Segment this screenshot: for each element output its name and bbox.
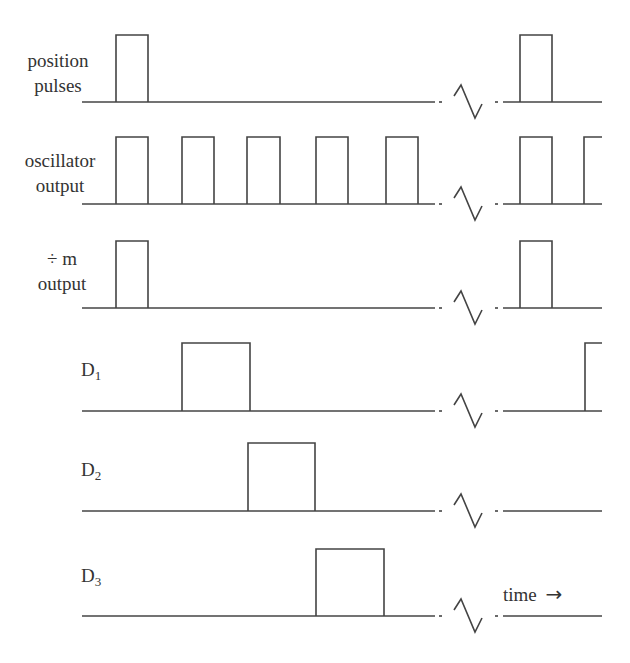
label-position-pulses: position pulses — [10, 48, 106, 98]
label-d1: D1 — [81, 359, 101, 384]
label-line: position — [10, 48, 106, 73]
d1-pulse-partial — [585, 343, 602, 411]
d2-pulse — [248, 443, 315, 511]
oscillator-output-pulse — [182, 137, 214, 204]
label-d1-main: D — [81, 359, 95, 380]
label-d2-main: D — [81, 459, 95, 480]
label-d3-subscript: 3 — [95, 574, 102, 589]
label-d1-subscript: 1 — [95, 368, 102, 383]
label-d2: D2 — [81, 459, 101, 484]
position-pulses-pulse — [116, 35, 148, 102]
break-zigzag-icon — [454, 291, 482, 324]
oscillator-output-pulse-partial — [584, 137, 602, 204]
oscillator-output-pulse — [116, 137, 148, 204]
label-divide-m-output: ÷ m output — [14, 246, 110, 296]
break-zigzag-icon — [454, 599, 482, 632]
label-d3: D3 — [81, 565, 101, 590]
oscillator-output-pulse — [386, 137, 418, 204]
label-line: pulses — [10, 73, 106, 98]
label-d3-main: D — [81, 565, 95, 586]
oscillator-output-pulse — [520, 137, 552, 204]
label-line: output — [14, 271, 110, 296]
break-zigzag-icon — [454, 187, 482, 220]
divide-m-output-pulse — [520, 241, 552, 308]
position-pulses-pulse — [520, 35, 552, 102]
time-arrow-icon: → — [546, 582, 563, 606]
label-oscillator-output: oscillator output — [12, 148, 108, 198]
timing-diagram: position pulses oscillator output ÷ m ou… — [0, 0, 630, 663]
d3-pulse — [316, 549, 384, 616]
label-d2-subscript: 2 — [95, 468, 102, 483]
oscillator-output-pulse — [247, 137, 280, 204]
break-zigzag-icon — [454, 494, 482, 527]
label-line: ÷ m — [14, 246, 110, 271]
break-zigzag-icon — [454, 85, 482, 118]
label-line: output — [12, 173, 108, 198]
time-label-text: time — [503, 584, 537, 605]
oscillator-output-pulse — [316, 137, 348, 204]
divide-m-output-pulse — [116, 241, 148, 308]
break-zigzag-icon — [454, 394, 482, 427]
waveform-canvas — [0, 0, 630, 663]
label-line: oscillator — [12, 148, 108, 173]
time-axis-label: time → — [503, 582, 562, 606]
d1-pulse — [182, 343, 250, 411]
